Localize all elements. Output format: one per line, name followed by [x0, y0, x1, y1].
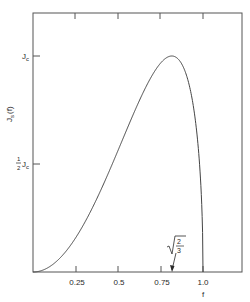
y-axis-ticks: [33, 56, 40, 164]
top-ticks: [75, 13, 203, 19]
svg-text:1: 1: [17, 156, 21, 162]
x-tick-label: 0.25: [69, 278, 85, 287]
svg-text:3: 3: [177, 247, 181, 254]
svg-text:s: s: [9, 115, 15, 118]
y-axis-label: J s (f): [5, 106, 15, 122]
y-tick-label-jc: J c: [22, 52, 29, 62]
svg-text:c: c: [26, 164, 29, 170]
x-axis-ticks: [76, 266, 203, 272]
sqrt-two-thirds-annotation: 2 3: [167, 236, 186, 272]
svg-text:2: 2: [177, 238, 181, 245]
chart: 0.25 0.5 0.75 1.0 f J c 1 2 J c J s (f) …: [0, 0, 250, 302]
y-tick-label-half-jc: 1 2 J c: [16, 156, 29, 171]
svg-text:c: c: [26, 56, 29, 62]
x-tick-label: 0.5: [113, 278, 125, 287]
x-tick-labels: 0.25 0.5 0.75 1.0: [69, 278, 209, 287]
x-tick-label: 0.75: [154, 278, 170, 287]
arrow-head: [170, 265, 175, 272]
svg-text:2: 2: [17, 165, 21, 171]
svg-text:(f): (f): [5, 106, 14, 114]
x-axis-label: f: [202, 290, 205, 299]
plot-frame: [33, 13, 242, 272]
x-tick-label: 1.0: [197, 278, 209, 287]
